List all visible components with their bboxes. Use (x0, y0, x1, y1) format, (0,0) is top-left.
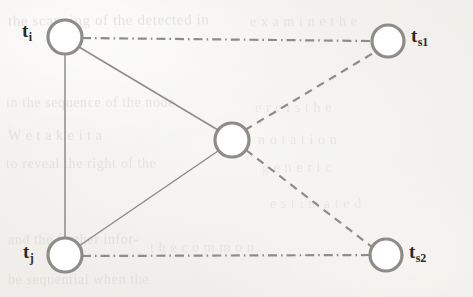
node-label-subscript-t_j: j (30, 251, 34, 265)
graph-node-center (215, 123, 249, 157)
graph-node-t_s2 (370, 239, 402, 271)
graph-node-t_i (48, 20, 82, 54)
node-label-t_s2: ts2 (409, 242, 426, 261)
figure-container: the scanning of the detected ine x a m i… (0, 0, 473, 297)
node-label-base-t_i: t (22, 20, 28, 41)
graph-edge-t_i-center (79, 47, 218, 130)
graph-edge-center-t_s1 (245, 52, 375, 130)
graph-node-t_j (48, 238, 82, 272)
nodes-group (48, 20, 404, 272)
graph-edge-t_j-t_s2 (82, 255, 370, 256)
graph-node-t_s1 (372, 25, 404, 57)
node-label-subscript-t_s2: s2 (416, 251, 426, 265)
node-label-subscript-t_s1: s1 (418, 35, 428, 49)
node-label-base-t_j: t (23, 241, 29, 262)
node-label-subscript-t_i: i (29, 30, 32, 44)
node-label-t_j: tj (23, 242, 33, 261)
graph-canvas (0, 0, 473, 297)
graph-edge-t_j-center (79, 151, 218, 246)
node-label-t_i: ti (22, 21, 31, 40)
node-label-t_s1: ts1 (411, 26, 428, 45)
node-label-base-t_s2: t (409, 241, 415, 262)
node-label-base-t_s1: t (411, 25, 417, 46)
graph-edge-t_i-t_s1 (82, 38, 372, 41)
graph-edge-center-t_s2 (246, 150, 372, 247)
